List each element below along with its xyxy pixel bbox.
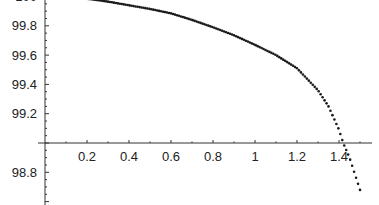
data-point (313, 86, 316, 89)
y-tick-label: 99.6 (12, 48, 37, 63)
data-point (349, 158, 352, 161)
data-point (351, 164, 354, 167)
data-point (335, 123, 338, 126)
data-point (311, 83, 314, 86)
data-point (302, 73, 305, 76)
data-point (319, 93, 322, 96)
data-point (353, 170, 356, 173)
data-point (331, 114, 334, 117)
y-tick-label: 98.8 (12, 165, 37, 180)
data-point (308, 79, 311, 82)
x-tick-label: 1.4 (330, 149, 348, 164)
tick-labels: 0.20.40.60.811.21.410099.899.699.499.298… (12, 0, 348, 180)
y-tick-label: 99.4 (12, 77, 37, 92)
x-tick-label: 1.2 (288, 149, 306, 164)
data-point (325, 102, 328, 105)
data-point (300, 71, 303, 74)
data-point (329, 109, 332, 112)
line-chart: 0.20.40.60.811.21.410099.899.699.499.298… (0, 0, 379, 205)
data-point (343, 144, 346, 147)
axes (38, 0, 372, 205)
data-point (309, 81, 312, 84)
data-point (337, 127, 340, 130)
data-point (339, 133, 342, 136)
data-point (347, 153, 350, 156)
y-tick-label: 100 (15, 0, 37, 4)
data-point (298, 69, 301, 72)
data-point (345, 149, 348, 152)
data-point (296, 67, 299, 70)
data-point (306, 77, 309, 80)
data-point (321, 96, 324, 99)
data-point (323, 99, 326, 102)
data-point (327, 105, 330, 108)
x-tick-label: 1 (251, 149, 258, 164)
y-tick-label: 99.2 (12, 106, 37, 121)
data-point (341, 139, 344, 142)
data-point (333, 118, 336, 121)
data-point (355, 176, 358, 179)
x-tick-label: 0.2 (78, 149, 96, 164)
y-tick-label: 99.8 (12, 18, 37, 33)
x-tick-label: 0.4 (120, 149, 138, 164)
data-point (359, 189, 362, 192)
data-point (304, 75, 307, 78)
x-tick-label: 0.6 (162, 149, 180, 164)
data-point (315, 88, 318, 91)
data-point (317, 90, 320, 93)
x-tick-label: 0.8 (204, 149, 222, 164)
data-point (357, 183, 360, 186)
